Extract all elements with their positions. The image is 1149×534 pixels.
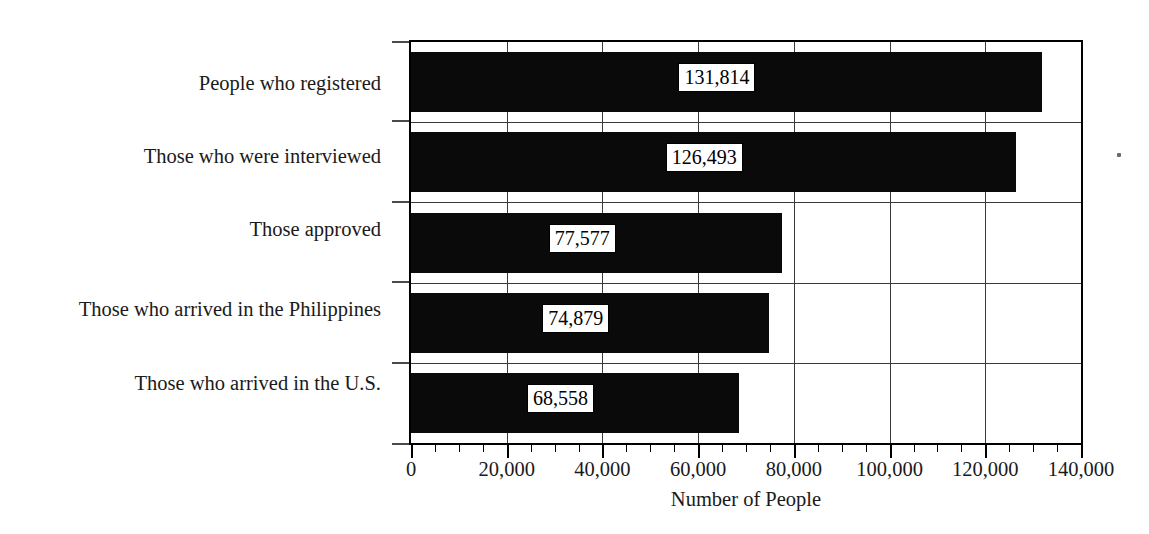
x-tick-minor (435, 445, 436, 452)
bar-value-label: 131,814 (678, 63, 755, 92)
x-tick-major (985, 445, 987, 458)
x-tick-minor (483, 445, 484, 452)
horizontal-gridline (411, 122, 1081, 123)
x-tick-minor (770, 445, 771, 452)
axis-stub-5 (392, 443, 410, 445)
category-axis-labels: People who registered Those who were int… (0, 0, 395, 534)
scan-artifact-speck (1117, 153, 1121, 157)
x-tick-label: 100,000 (856, 459, 923, 480)
axis-stub-2 (392, 201, 410, 203)
x-tick-label: 0 (406, 459, 416, 480)
x-tick-minor (842, 445, 843, 452)
axis-stub-1 (392, 120, 410, 122)
x-tick-label: 40,000 (574, 459, 630, 480)
category-label-1: Those who were interviewed (0, 146, 381, 167)
x-tick-major (1081, 445, 1083, 458)
x-tick-label: 140,000 (1048, 459, 1115, 480)
x-tick-minor (459, 445, 460, 452)
axis-stub-3 (392, 281, 410, 283)
x-tick-major (698, 445, 700, 458)
x-tick-minor (746, 445, 747, 452)
axis-stub-4 (392, 362, 410, 364)
x-tick-label: 20,000 (479, 459, 535, 480)
bar-chart: People who registered Those who were int… (0, 0, 1149, 534)
x-tick-major (794, 445, 796, 458)
horizontal-gridline (411, 363, 1081, 364)
category-label-4: Those who arrived in the U.S. (0, 373, 381, 394)
x-tick-minor (937, 445, 938, 452)
x-axis-title: Number of People (409, 489, 1083, 510)
x-tick-minor (531, 445, 532, 452)
plot-area: 131,814126,49377,57774,87968,558 (409, 40, 1083, 445)
x-tick-major (411, 445, 413, 458)
category-label-3: Those who arrived in the Philippines (0, 299, 381, 320)
x-tick-label: 120,000 (952, 459, 1019, 480)
x-axis-tick-labels: 020,00040,00060,00080,000100,000120,0001… (409, 459, 1083, 489)
x-tick-minor (555, 445, 556, 452)
horizontal-gridline (411, 202, 1081, 203)
bar-value-label: 77,577 (549, 224, 616, 253)
x-tick-label: 60,000 (670, 459, 726, 480)
x-tick-major (507, 445, 509, 458)
plot-inner: 131,814126,49377,57774,87968,558 (411, 42, 1081, 443)
x-tick-major (602, 445, 604, 458)
x-tick-minor (1033, 445, 1034, 452)
x-tick-major (890, 445, 892, 458)
axis-stub-0 (392, 41, 410, 43)
x-tick-minor (866, 445, 867, 452)
category-label-0: People who registered (0, 73, 381, 94)
x-tick-minor (674, 445, 675, 452)
category-label-2: Those approved (0, 219, 381, 240)
x-tick-label: 80,000 (766, 459, 822, 480)
horizontal-gridline (411, 283, 1081, 284)
x-tick-minor (722, 445, 723, 452)
bar-value-label: 68,558 (527, 384, 594, 413)
x-tick-minor (626, 445, 627, 452)
x-tick-minor (961, 445, 962, 452)
x-tick-minor (1057, 445, 1058, 452)
x-tick-minor (818, 445, 819, 452)
x-tick-minor (1009, 445, 1010, 452)
x-tick-minor (650, 445, 651, 452)
x-tick-minor (579, 445, 580, 452)
bar-value-label: 74,879 (542, 304, 609, 333)
bar-value-label: 126,493 (666, 143, 743, 172)
x-tick-minor (914, 445, 915, 452)
x-axis-ticks (409, 445, 1083, 459)
